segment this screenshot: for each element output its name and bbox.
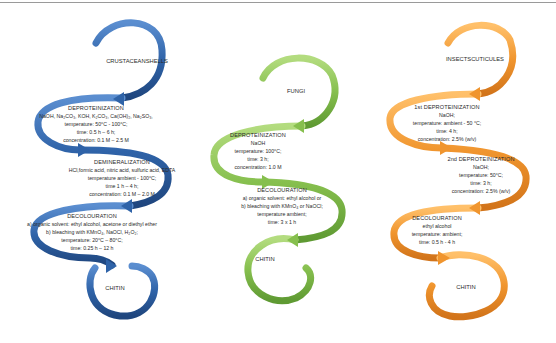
insects-step-decolouration: DECOLOURATION ethyl alcohol temperature:…: [412, 214, 463, 246]
crustacean-source-label: CRUSTACEANSHELLS: [106, 57, 168, 66]
fungi-spiral: [214, 58, 342, 300]
fungi-step-decolouration: DECOLOURATION a) organic solvent: ethyl …: [241, 186, 323, 226]
crustacean-step-deproteinization: DEPROTEINIZATION NaOH, Na₂CO₃, KOH, K₂CO…: [39, 104, 153, 144]
fungi-product-label: CHITIN: [255, 255, 274, 264]
fungi-step-deproteinization: DEPROTEINIZATION NaOH temperature: 100°C…: [230, 131, 286, 171]
insects-step-2nd-deproteinization: 2nd DEPROTEINIZATION NaOH; temperature: …: [447, 155, 514, 195]
insects-step-1st-deproteinization: 1st DEPROTEINIZATION NaOH; temperature: …: [413, 103, 481, 143]
crustacean-product-label: CHITIN: [105, 284, 124, 293]
insects-source-label: INSECTSCUTICULES: [446, 55, 504, 64]
insects-product-label: CHITIN: [456, 283, 475, 292]
crustacean-step-demineralization: DEMINERALIZATION HCl,formic acid, nitric…: [69, 158, 176, 198]
crustacean-step-decolouration: DECOLOURATION a) organic solvent: ethyl …: [27, 212, 157, 252]
fungi-source-label: FUNGI: [287, 87, 305, 96]
